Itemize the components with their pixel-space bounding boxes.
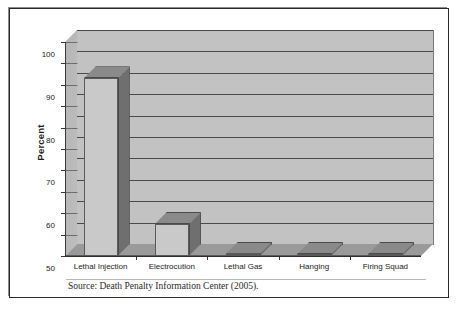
x-axis-tick: [207, 256, 208, 260]
y-axis-label: 100: [42, 50, 55, 59]
y-axis-label: 60: [46, 221, 55, 230]
x-axis-label: Lethal Gas: [224, 262, 263, 271]
x-axis-tick: [136, 256, 137, 260]
x-axis-label: Hanging: [299, 262, 329, 271]
x-axis-tick: [350, 256, 351, 260]
chart-stage: Percent 0102030405060708090100 Lethal In…: [10, 9, 450, 299]
plot-area: 0102030405060708090100 Lethal InjectionE…: [65, 30, 433, 262]
x-axis-label: Firing Squad: [363, 262, 408, 271]
source-note: Source: Death Penalty Information Center…: [68, 281, 258, 291]
bar-column: [65, 30, 433, 256]
y-axis-label: 90: [46, 92, 55, 101]
y-axis-title: Percent: [35, 103, 46, 183]
x-axis-label: Electrocution: [149, 262, 195, 271]
y-axis-label: 80: [46, 135, 55, 144]
source-divider: [66, 279, 426, 280]
x-axis-label: Lethal Injection: [74, 262, 128, 271]
x-axis-line: [65, 256, 421, 257]
x-axis-tick: [279, 256, 280, 260]
figure-frame: Percent 0102030405060708090100 Lethal In…: [9, 8, 449, 298]
y-axis-label: 70: [46, 178, 55, 187]
bar-top-face: [368, 242, 414, 254]
y-axis-label: 50: [46, 264, 55, 273]
